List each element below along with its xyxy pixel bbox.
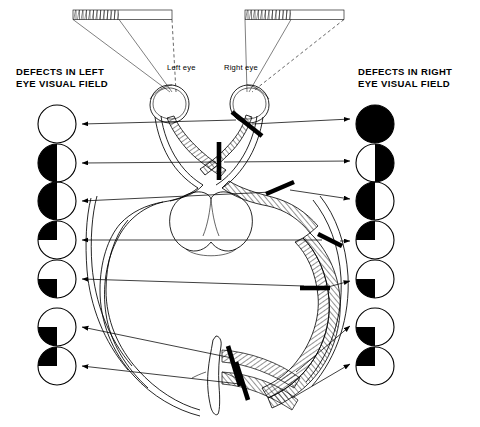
arrow-row3-right <box>290 190 350 199</box>
right-visual-field-bar <box>245 10 344 92</box>
arrow-row2-left <box>82 162 216 163</box>
arrow-row2-right <box>224 161 350 162</box>
arrow-row1-right <box>252 119 350 124</box>
arrow-row7-left <box>82 366 240 384</box>
left-visual-field-bar <box>73 10 176 92</box>
right-field-circle-row-7 <box>356 347 394 385</box>
right-field-circle-row-3 <box>356 182 394 220</box>
midbrain <box>170 192 253 256</box>
left-field-circle-row-1 <box>38 105 76 143</box>
right-field-circle-row-4 <box>356 221 394 259</box>
arrow-row5-left <box>82 279 304 286</box>
arrow-row6-left <box>82 327 232 358</box>
right-field-circle-row-2 <box>356 144 394 182</box>
pathway-artwork <box>0 0 480 427</box>
left-field-circle-row-5 <box>38 260 76 298</box>
arrow-row1-left <box>82 120 236 124</box>
left-hemisphere-outline <box>86 196 200 416</box>
left-field-circle-row-7 <box>38 347 76 385</box>
visual-pathway-diagram: DEFECTS IN LEFT EYE VISUAL FIELD DEFECTS… <box>0 0 480 427</box>
right-field-circle-row-6 <box>356 308 394 346</box>
left-field-circle-row-6 <box>38 308 76 346</box>
left-field-circle-row-4 <box>38 221 76 259</box>
right-field-circle-row-1 <box>356 105 394 143</box>
right-field-circle-row-5 <box>356 260 394 298</box>
left-field-circle-row-3 <box>38 182 76 220</box>
left-field-circle-row-2 <box>38 144 76 182</box>
